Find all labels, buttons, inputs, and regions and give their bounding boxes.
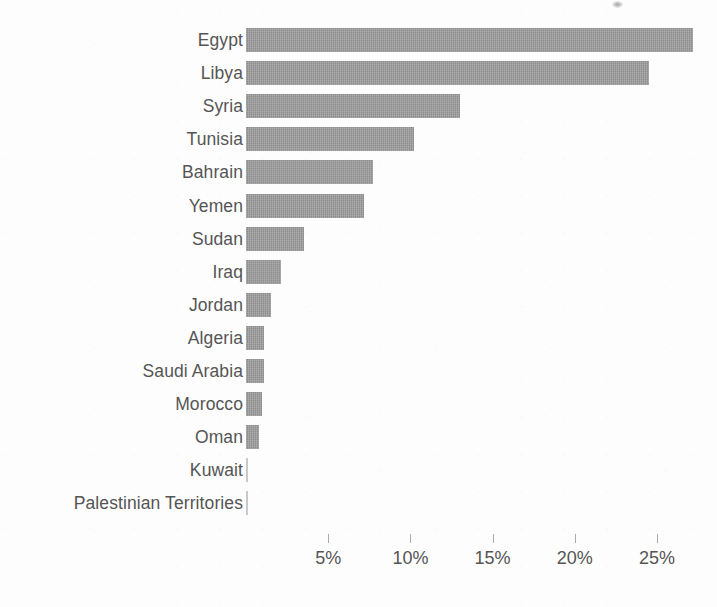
bar-row: Iraq: [0, 257, 717, 287]
bar-row: Bahrain: [0, 157, 717, 187]
category-label: Egypt: [198, 25, 243, 55]
category-label: Iraq: [212, 257, 243, 287]
category-label: Sudan: [192, 224, 243, 254]
category-label: Bahrain: [182, 157, 243, 187]
x-axis-tick-label: 10%: [392, 548, 428, 569]
x-axis-tick-label: 5%: [315, 548, 341, 569]
bar-row: Libya: [0, 58, 717, 88]
category-label: Libya: [201, 58, 243, 88]
bar: [246, 491, 248, 515]
category-label: Syria: [203, 91, 243, 121]
bar: [246, 28, 693, 52]
bar-row: Oman: [0, 422, 717, 452]
bar-row: Algeria: [0, 323, 717, 353]
bar: [246, 458, 248, 482]
bar: [246, 359, 264, 383]
category-label: Oman: [195, 422, 243, 452]
x-axis-tick: [657, 534, 658, 543]
category-label: Algeria: [188, 323, 243, 353]
category-label: Jordan: [189, 290, 243, 320]
category-label: Kuwait: [190, 455, 243, 485]
plot-area: EgyptLibyaSyriaTunisiaBahrainYemenSudanI…: [0, 0, 717, 607]
bar-row: Palestinian Territories: [0, 488, 717, 518]
bar-row: Saudi Arabia: [0, 356, 717, 386]
x-axis: 5%10%15%20%25%: [0, 534, 717, 594]
bar-row: Sudan: [0, 224, 717, 254]
x-axis-tick: [328, 534, 329, 543]
bar-row: Yemen: [0, 191, 717, 221]
category-label: Tunisia: [187, 124, 243, 154]
bar: [246, 425, 259, 449]
category-label: Saudi Arabia: [143, 356, 243, 386]
bar-row: Egypt: [0, 25, 717, 55]
category-label: Yemen: [189, 191, 243, 221]
bar-row: Jordan: [0, 290, 717, 320]
bar-row: Tunisia: [0, 124, 717, 154]
bar: [246, 293, 271, 317]
bar: [246, 94, 460, 118]
bar: [246, 127, 414, 151]
bar: [246, 194, 364, 218]
x-axis-tick-label: 20%: [557, 548, 593, 569]
x-axis-tick-label: 15%: [475, 548, 511, 569]
bar-chart: EgyptLibyaSyriaTunisiaBahrainYemenSudanI…: [0, 0, 717, 607]
bar: [246, 326, 264, 350]
bar: [246, 260, 281, 284]
bar-row: Kuwait: [0, 455, 717, 485]
x-axis-tick-label: 25%: [639, 548, 675, 569]
category-label: Palestinian Territories: [74, 488, 243, 518]
x-axis-tick: [493, 534, 494, 543]
bar: [246, 160, 373, 184]
x-axis-tick: [410, 534, 411, 543]
bar-row: Syria: [0, 91, 717, 121]
bar: [246, 227, 304, 251]
x-axis-tick: [575, 534, 576, 543]
bar: [246, 392, 262, 416]
bar-row: Morocco: [0, 389, 717, 419]
category-label: Morocco: [175, 389, 243, 419]
bar: [246, 61, 649, 85]
